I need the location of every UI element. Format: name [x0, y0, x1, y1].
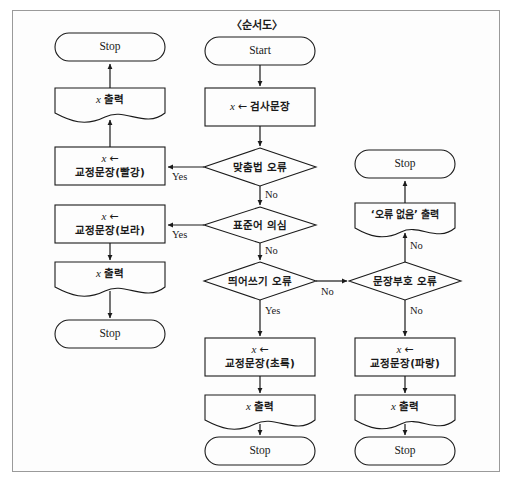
figure-title: 〈순서도〉 — [231, 16, 283, 32]
edge-label-standard-yes: Yes — [172, 229, 187, 240]
edge-label-standard-no: No — [265, 245, 278, 256]
edge-label-spacing-no: No — [321, 286, 334, 297]
edge-label-spacing-yes: Yes — [265, 305, 280, 316]
edge-label-punct-down-no: No — [410, 305, 423, 316]
edge-label-spelling-no: No — [265, 189, 278, 200]
flowchart-shapes — [0, 0, 514, 487]
flowchart-page: 〈순서도〉 Start x ← 검사문장 맞춤법 오류 표준어 의심 띄어쓰기 … — [0, 0, 514, 487]
edge-label-spelling-yes: Yes — [172, 171, 187, 182]
edge-label-punct-up-no: No — [410, 240, 423, 251]
